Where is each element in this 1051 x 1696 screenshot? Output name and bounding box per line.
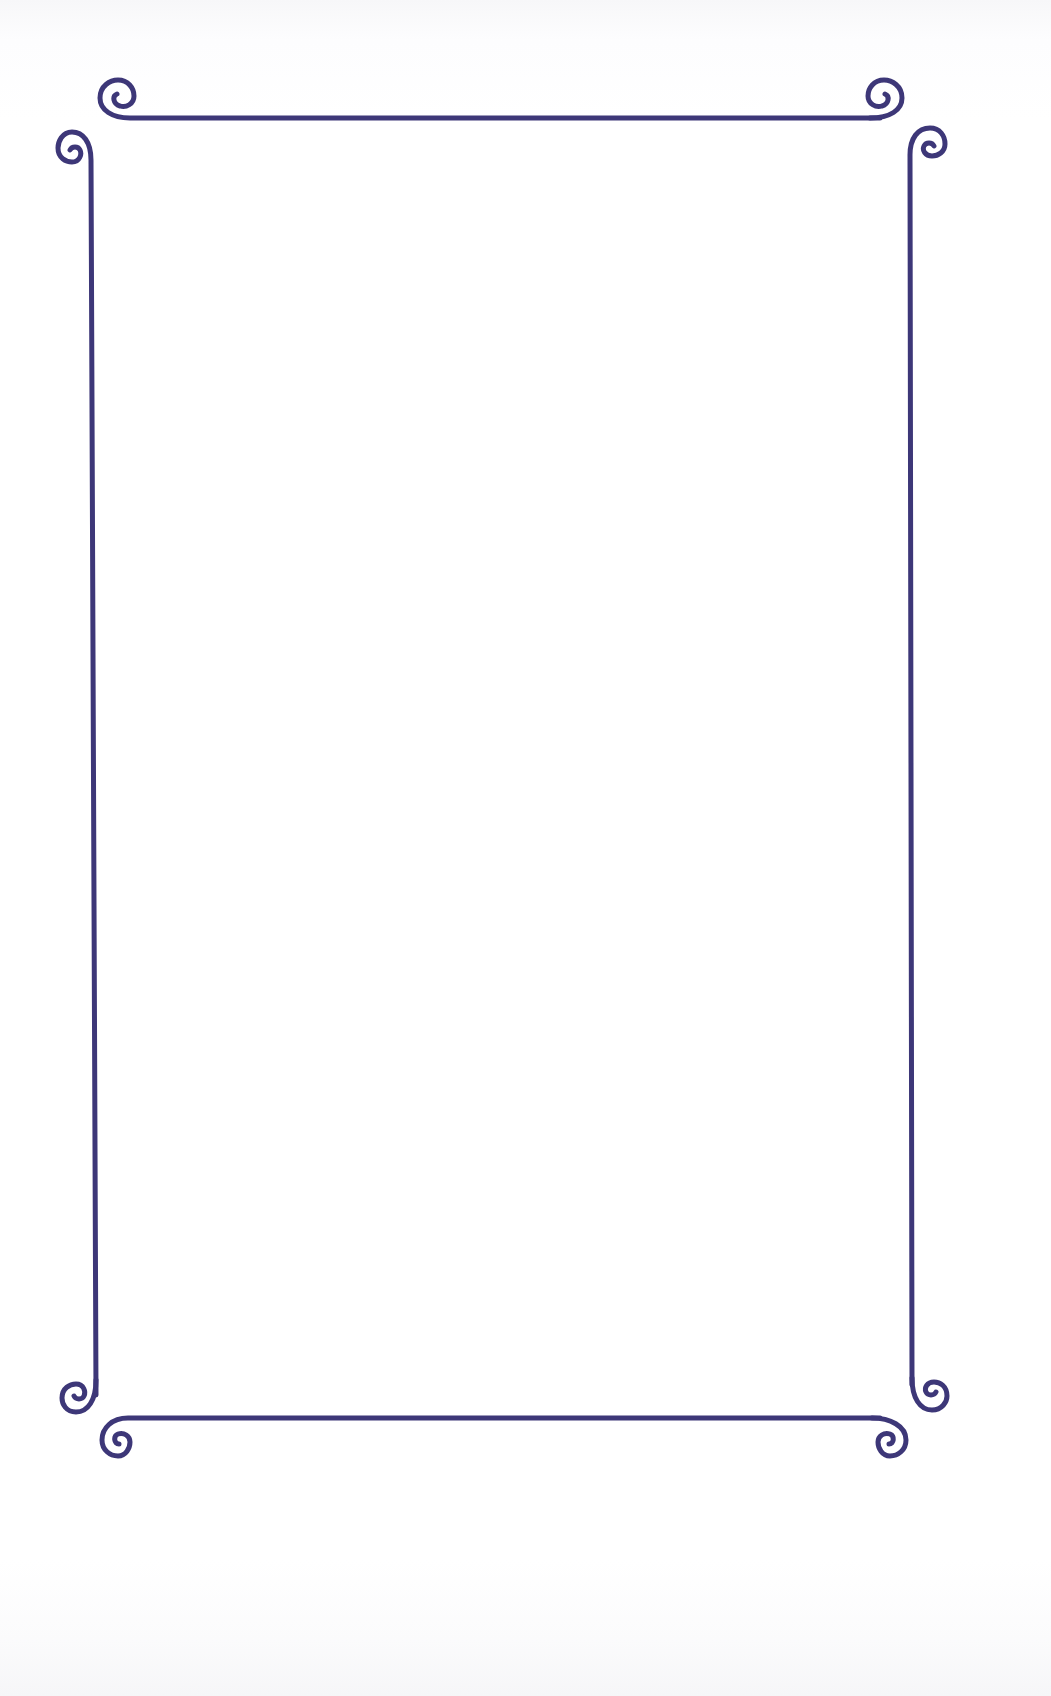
frame-content-area xyxy=(100,128,900,1408)
right-border xyxy=(910,128,947,1410)
spiral-scroll-icon xyxy=(912,1378,947,1410)
spiral-scroll-icon xyxy=(102,1418,880,1456)
spiral-scroll-icon xyxy=(58,132,96,1395)
spiral-scroll-icon xyxy=(872,1418,906,1456)
left-border xyxy=(58,132,96,1412)
paper-page xyxy=(0,0,1051,1696)
bottom-border xyxy=(102,1418,906,1456)
top-border xyxy=(100,80,902,118)
spiral-scroll-icon xyxy=(100,80,880,118)
spiral-scroll-icon xyxy=(910,128,945,1385)
spiral-scroll-icon xyxy=(62,1380,96,1412)
spiral-scroll-icon xyxy=(868,80,902,118)
